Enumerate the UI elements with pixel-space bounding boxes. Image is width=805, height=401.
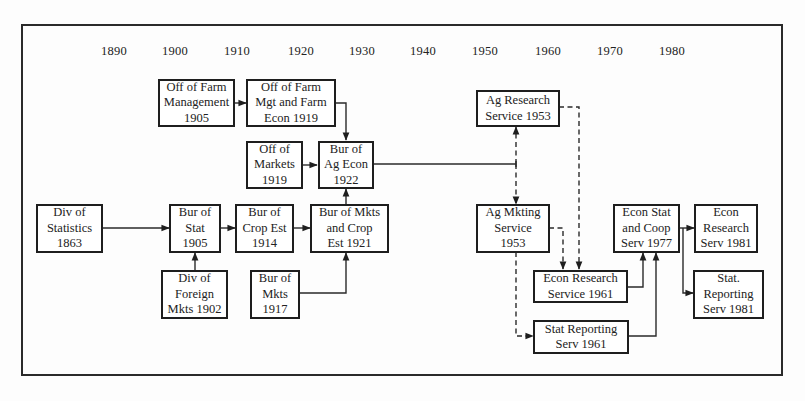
edge-dashed-arrow <box>559 107 579 269</box>
edge-dashed-arrow <box>516 252 533 336</box>
node-div-foreign-mkts: Div of Foreign Mkts 1902 <box>161 270 228 319</box>
node-off-markets: Off of Markets 1919 <box>246 141 303 189</box>
node-econ-stat-coop-serv: Econ Stat and Coop Serv 1977 <box>613 204 680 253</box>
edge-arrow <box>628 253 656 336</box>
node-stat-reporting-serv-1961: Stat Reporting Serv 1961 <box>533 320 629 354</box>
connector-lines <box>0 0 805 401</box>
edge-arrow <box>299 253 346 293</box>
edge-arrow <box>335 103 346 140</box>
node-econ-research-service-1961: Econ Research Service 1961 <box>533 270 628 303</box>
node-stat-reporting-serv-1981: Stat. Reporting Serv 1981 <box>693 270 764 319</box>
node-div-statistics: Div of Statistics 1863 <box>36 204 103 253</box>
node-bur-stat: Bur of Stat 1905 <box>169 204 221 253</box>
node-ag-mkting-service: Ag Mkting Service 1953 <box>476 204 550 253</box>
node-bur-mkts-crop-est: Bur of Mkts and Crop Est 1921 <box>310 204 389 253</box>
edge-arrow <box>627 253 643 287</box>
node-off-farm-management: Off of Farm Management 1905 <box>158 79 235 127</box>
node-ag-research-service: Ag Research Service 1953 <box>476 90 560 127</box>
node-econ-research-serv-1981: Econ Research Serv 1981 <box>694 204 758 253</box>
node-bur-mkts: Bur of Mkts 1917 <box>250 270 300 319</box>
edge-dashed-arrow <box>549 228 563 269</box>
edge-arrow <box>683 228 693 293</box>
node-off-farm-mgt-econ: Off of Farm Mgt and Farm Econ 1919 <box>246 79 336 127</box>
node-bur-crop-est: Bur of Crop Est 1914 <box>235 204 294 253</box>
node-bur-ag-econ: Bur of Ag Econ 1922 <box>318 141 374 189</box>
